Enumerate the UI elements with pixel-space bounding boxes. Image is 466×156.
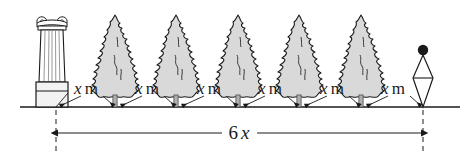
spacing-label-2: xm bbox=[134, 79, 159, 98]
spacing-variable-6: x bbox=[380, 79, 389, 98]
spacing-unit-5: m bbox=[331, 79, 344, 98]
spacing-unit-2: m bbox=[146, 79, 159, 98]
tree-2 bbox=[153, 15, 200, 107]
spacing-label-1: xm bbox=[73, 79, 98, 98]
tree-4 bbox=[276, 15, 323, 107]
spacing-label-4: xm bbox=[257, 79, 282, 98]
spacing-variable-1: x bbox=[73, 79, 82, 98]
column-base bbox=[36, 82, 68, 107]
dimension-label: 6x bbox=[229, 122, 251, 143]
spacing-variable-4: x bbox=[257, 79, 266, 98]
tree-5 bbox=[338, 15, 385, 107]
spacing-label-3: xm bbox=[196, 79, 221, 98]
figure-container: xm xm xm xm xm xm 6x bbox=[0, 0, 466, 156]
ionic-column bbox=[36, 17, 68, 107]
lamp-post bbox=[413, 45, 433, 107]
spacing-unit-1: m bbox=[85, 79, 98, 98]
spacing-label-6: xm bbox=[380, 79, 405, 98]
dimension-coefficient: 6 bbox=[229, 122, 239, 143]
spacing-unit-4: m bbox=[269, 79, 282, 98]
spacing-variable-5: x bbox=[319, 79, 328, 98]
spacing-unit-6: m bbox=[392, 79, 405, 98]
spacing-variable-3: x bbox=[196, 79, 205, 98]
spacing-variable-2: x bbox=[134, 79, 143, 98]
dimension-variable: x bbox=[240, 122, 250, 143]
diagram-canvas: xm xm xm xm xm xm 6x bbox=[0, 0, 466, 156]
total-span-dimension: 6x bbox=[56, 110, 423, 152]
spacing-label-5: xm bbox=[319, 79, 344, 98]
spacing-unit-3: m bbox=[208, 79, 221, 98]
tree-3 bbox=[215, 15, 262, 107]
tree-1 bbox=[92, 15, 139, 107]
